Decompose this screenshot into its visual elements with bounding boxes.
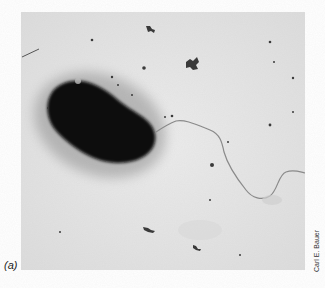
debris-particle [273, 61, 275, 63]
photo-credit: Carl E. Bauer [313, 230, 320, 272]
panel-label: (a) [4, 259, 17, 271]
debris-particle [269, 41, 272, 44]
debris-particle [292, 77, 294, 79]
debris-particle [91, 39, 94, 42]
debris-particle [269, 124, 272, 127]
debris-particle [292, 111, 294, 113]
micrograph-figure [0, 0, 325, 288]
debris-particle [47, 107, 49, 109]
cell-bleb [75, 78, 81, 84]
smudge [178, 220, 222, 240]
debris-particle [117, 84, 119, 86]
debris-particle [59, 231, 61, 233]
debris-particle [131, 94, 133, 96]
debris-particle [142, 66, 146, 70]
debris-particle [171, 115, 174, 118]
debris-particle [111, 76, 113, 78]
debris-particle [239, 254, 241, 256]
smudge [262, 195, 282, 205]
debris-particle [210, 163, 214, 167]
debris-particle [227, 141, 229, 143]
debris-particle [164, 116, 166, 118]
debris-particle [209, 199, 211, 201]
